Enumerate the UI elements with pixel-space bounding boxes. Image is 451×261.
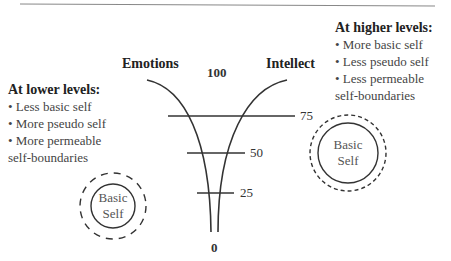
lower-levels-item: • Less basic self — [8, 98, 106, 115]
lower-levels-item: • More permeable — [8, 132, 106, 149]
lower-levels-item: self-boundaries — [8, 149, 106, 166]
scale-bottom-label: 0 — [211, 240, 218, 256]
basic-self-line2: Self — [328, 153, 368, 169]
basic-self-line2: Self — [93, 206, 133, 222]
emotions-curve — [147, 80, 211, 232]
basic-self-line1: Basic — [328, 137, 368, 153]
higher-levels-item: self-boundaries — [335, 87, 433, 104]
lower-levels-heading: At lower levels: — [8, 82, 106, 98]
basic-self-label-high: Basic Self — [328, 137, 368, 169]
lower-levels-item: • More pseudo self — [8, 115, 106, 132]
higher-levels-block: At higher levels: • More basic self • Le… — [335, 20, 433, 104]
emotions-label: Emotions — [122, 56, 179, 72]
scale-top-label: 100 — [207, 65, 227, 81]
scale-tick-75: 75 — [300, 108, 313, 124]
higher-levels-heading: At higher levels: — [335, 20, 433, 36]
higher-levels-item: • More basic self — [335, 36, 433, 53]
lower-levels-block: At lower levels: • Less basic self • Mor… — [8, 82, 106, 166]
scale-tick-50: 50 — [250, 145, 263, 161]
intellect-label: Intellect — [266, 56, 315, 72]
higher-levels-item: • Less pseudo self — [335, 53, 433, 70]
basic-self-line1: Basic — [93, 190, 133, 206]
higher-levels-item: • Less permeable — [335, 70, 433, 87]
basic-self-label-low: Basic Self — [93, 190, 133, 222]
scale-tick-25: 25 — [240, 185, 253, 201]
top-rule — [20, 4, 435, 6]
